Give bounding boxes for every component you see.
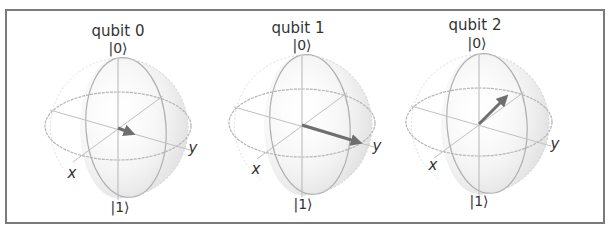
ket-zero-label: |0⟩ bbox=[467, 35, 486, 52]
sphere-title: qubit 1 bbox=[272, 19, 325, 37]
x-axis-label: x bbox=[251, 160, 261, 178]
sphere-shading bbox=[264, 55, 372, 195]
sphere-shading bbox=[441, 54, 549, 194]
sphere-title: qubit 2 bbox=[449, 16, 502, 34]
ket-one-label: |1⟩ bbox=[469, 193, 488, 210]
ket-one-label: |1⟩ bbox=[110, 199, 129, 216]
ket-zero-label: |0⟩ bbox=[292, 37, 311, 54]
x-axis-label: x bbox=[428, 156, 438, 174]
y-axis-label: y bbox=[550, 135, 561, 153]
bloch-figure: qubit 0 |0⟩ |1⟩ x y qubit 1 |0⟩ |1⟩ x y … bbox=[0, 0, 609, 230]
sphere-title: qubit 0 bbox=[92, 22, 145, 40]
y-axis-label: y bbox=[188, 139, 199, 157]
y-axis-label: y bbox=[372, 137, 383, 155]
ket-one-label: |1⟩ bbox=[293, 196, 312, 213]
sphere-shading bbox=[80, 58, 188, 198]
ket-zero-label: |0⟩ bbox=[108, 40, 127, 57]
x-axis-label: x bbox=[67, 164, 77, 182]
